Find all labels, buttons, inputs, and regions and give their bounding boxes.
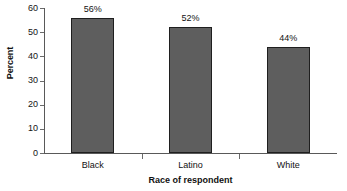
y-tick-mark (40, 129, 44, 130)
x-tick-mark (239, 154, 240, 159)
y-tick-label: 0 (8, 149, 38, 158)
y-axis-line (44, 8, 45, 154)
bar-chart: Percent 0102030405060 56%52%44% BlackLat… (0, 0, 347, 191)
y-tick-label: 50 (8, 28, 38, 37)
bar-value-label: 52% (161, 14, 221, 23)
bar-value-label: 44% (258, 34, 318, 43)
y-tick-label: 10 (8, 124, 38, 133)
x-category-label: White (248, 160, 328, 170)
y-tick-mark (40, 8, 44, 9)
bar-white (267, 47, 310, 153)
y-tick-mark (40, 56, 44, 57)
x-category-label: Latino (151, 160, 231, 170)
x-tick-mark (142, 154, 143, 159)
y-tick-label: 40 (8, 52, 38, 61)
y-tick-mark (40, 81, 44, 82)
bar-value-label: 56% (63, 5, 123, 14)
bar-latino (169, 27, 212, 153)
x-axis-line (44, 153, 337, 154)
y-tick-mark (40, 153, 44, 154)
bar-black (71, 18, 114, 153)
y-tick-label: 20 (8, 100, 38, 109)
x-axis-title: Race of respondent (44, 175, 337, 185)
y-tick-label: 30 (8, 76, 38, 85)
y-tick-mark (40, 32, 44, 33)
y-tick-mark (40, 105, 44, 106)
x-category-label: Black (53, 160, 133, 170)
y-tick-label: 60 (8, 4, 38, 13)
